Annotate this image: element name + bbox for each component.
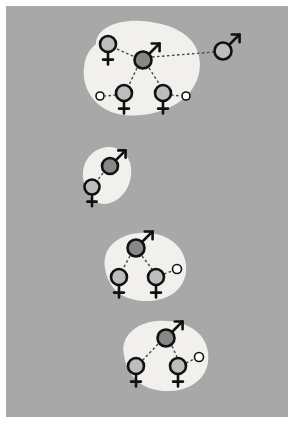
male-symbol[interactable]: Dispersing male (215, 34, 240, 59)
female-symbol-circle[interactable] (128, 358, 144, 374)
female-symbol-circle[interactable] (85, 180, 100, 195)
juvenile-symbol[interactable]: Juvenile 2 (182, 92, 190, 100)
male-symbol-circle[interactable] (128, 240, 145, 257)
juvenile-symbol[interactable]: Juvenile 1 (96, 92, 104, 100)
figure-root: Group 1Group 2Group 3Group 4 Female 1Mal… (0, 0, 294, 423)
female-symbol[interactable]: Female 1 (100, 36, 116, 64)
diagram-svg: Group 1Group 2Group 3Group 4 Female 1Mal… (0, 0, 294, 423)
male-symbol-circle[interactable] (215, 43, 232, 60)
group-blob-layer: Group 1Group 2Group 3Group 4 (83, 21, 208, 391)
female-symbol-circle[interactable] (155, 85, 171, 101)
female-symbol-circle[interactable] (148, 269, 164, 285)
juvenile-symbol[interactable]: Juvenile 1 (195, 353, 204, 362)
juvenile-symbol-circle[interactable] (195, 353, 204, 362)
juvenile-symbol[interactable]: Juvenile 1 (173, 265, 182, 274)
female-symbol[interactable]: Female 2 (148, 269, 164, 297)
female-symbol-circle[interactable] (116, 85, 132, 101)
male-symbol-circle[interactable] (135, 52, 152, 69)
female-symbol[interactable]: Female 1 (85, 180, 100, 207)
female-symbol-circle[interactable] (111, 269, 127, 285)
female-symbol[interactable]: Female 2 (116, 85, 132, 113)
female-symbol[interactable]: Female 1 (128, 358, 144, 386)
female-symbol[interactable]: Female 2 (170, 358, 186, 386)
juvenile-symbol-circle[interactable] (96, 92, 104, 100)
male-symbol-circle[interactable] (158, 330, 175, 347)
female-symbol-circle[interactable] (170, 358, 186, 374)
female-symbol[interactable]: Female 1 (111, 269, 127, 297)
female-symbol-circle[interactable] (100, 36, 116, 52)
juvenile-symbol-circle[interactable] (173, 265, 182, 274)
female-symbol[interactable]: Female 3 (155, 85, 171, 113)
male-symbol-circle[interactable] (102, 158, 118, 174)
male-glyph-arrow-shaft (229, 34, 240, 45)
juvenile-symbol-circle[interactable] (182, 92, 190, 100)
